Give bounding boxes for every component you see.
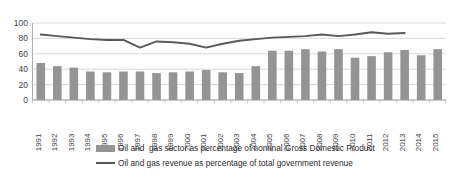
bar [334,49,343,100]
legend-item-bar-series: Oil and gas sector as percentage of nomi… [96,143,375,153]
bar [367,56,376,100]
bar [251,66,260,100]
line-series [41,32,405,47]
bar [53,66,62,100]
legend-bar-swatch-icon [96,145,115,152]
bar [384,52,393,100]
x-axis-tick-label: 1991 [34,133,43,151]
x-axis-tick-label: 2012 [381,133,390,151]
x-axis-tick-label: 2015 [431,133,440,151]
x-axis-tick-label: 1992 [50,133,59,151]
chart-plot-area: 020406080100 199119921993199419951996199… [0,0,450,180]
bar [318,51,327,100]
bar [103,72,112,100]
bar-series [36,49,442,100]
bar [136,72,145,100]
chart-container: 020406080100 199119921993199419951996199… [0,0,450,180]
bar [36,63,45,100]
x-axis-tick-label: 2014 [414,133,423,151]
legend-label-line-series: Oil and gas revenue as percentage of tot… [118,158,353,168]
bar [417,55,426,100]
bar [185,72,194,100]
bar [152,73,161,100]
y-axis-tick-label: 20 [19,80,29,90]
y-axis-tick-label: 60 [19,49,29,59]
bar [235,73,244,100]
bar [86,72,95,100]
y-axis-tick-label: 0 [23,95,28,105]
bar [285,51,294,100]
x-axis-tick-label: 1993 [67,133,76,151]
y-axis-tick-labels: 020406080100 [14,18,28,105]
bar [169,72,178,100]
y-axis-tick-label: 80 [19,33,29,43]
x-axis-tickmarks [33,100,447,103]
line-path [41,32,405,47]
x-axis-tick-label: 1994 [83,133,92,151]
bar [301,49,310,100]
bar [400,50,409,100]
bar [70,68,79,100]
bar [202,70,211,100]
legend-label-bar-series: Oil and gas sector as percentage of nomi… [118,143,375,153]
bar [433,49,442,100]
legend-item-line-series: Oil and gas revenue as percentage of tot… [96,158,353,168]
bar [218,72,227,100]
x-axis-tick-label: 2013 [398,133,407,151]
bar [351,58,360,100]
legend-line-swatch-icon [96,162,115,164]
bar [119,72,128,100]
bar [268,51,277,100]
y-axis-tick-label: 40 [19,64,29,74]
y-axis-tick-label: 100 [14,18,28,28]
